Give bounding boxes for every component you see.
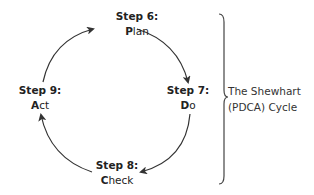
step-plan-label: Plan — [97, 24, 177, 39]
step-plan: Step 6: Plan — [97, 9, 177, 39]
step-check: Step 8: Check — [77, 158, 157, 188]
step-act-heading: Step 9: — [0, 83, 80, 98]
caption-line-1: The Shewhart — [228, 83, 301, 99]
step-check-heading: Step 8: — [77, 158, 157, 173]
step-do-heading: Step 7: — [148, 83, 228, 98]
step-act-label: Act — [0, 98, 80, 113]
step-do: Step 7: Do — [148, 83, 228, 113]
caption-line-2: (PDCA) Cycle — [228, 99, 301, 115]
arrow-act-to-plan — [43, 29, 93, 82]
cycle-caption: The Shewhart (PDCA) Cycle — [228, 83, 301, 115]
step-act: Step 9: Act — [0, 83, 80, 113]
step-do-label: Do — [148, 98, 228, 113]
step-check-label: Check — [77, 173, 157, 188]
step-plan-heading: Step 6: — [97, 9, 177, 24]
